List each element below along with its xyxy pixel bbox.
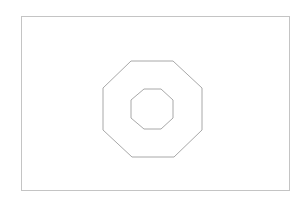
inner-octagon bbox=[131, 89, 173, 129]
frame-border bbox=[22, 17, 290, 191]
diagram-canvas bbox=[0, 0, 308, 200]
outer-octagon bbox=[103, 61, 202, 157]
